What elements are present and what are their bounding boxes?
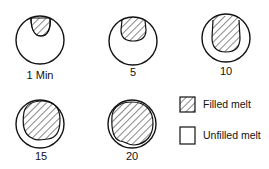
stage-label: 5 [130, 66, 136, 78]
filled-melt-swatch [180, 97, 195, 112]
stage-label: 20 [126, 150, 138, 162]
melt-filling-diagram [0, 0, 269, 169]
stage-10 [202, 14, 250, 62]
unfilled-melt-swatch [180, 127, 195, 144]
legend [180, 97, 195, 144]
stage-15 [16, 100, 64, 148]
stage-5 [109, 16, 157, 65]
stage-label: 1 Min [27, 69, 54, 81]
stage-label: 15 [35, 150, 47, 162]
stage-20 [108, 100, 156, 148]
legend-filled-label: Filled melt [203, 98, 251, 110]
stage-label: 10 [220, 65, 232, 77]
stage-1-min [16, 16, 64, 64]
legend-unfilled-label: Unfilled melt [203, 129, 261, 141]
